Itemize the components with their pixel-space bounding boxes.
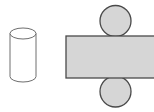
cylinder-shape: [10, 28, 36, 82]
shapes-svg: [0, 0, 154, 112]
rectangle-bar-shape: [66, 36, 154, 78]
figure-canvas: [0, 0, 154, 112]
circle-bottom-shape: [100, 76, 131, 107]
cylinder-body: [10, 34, 36, 83]
circle-top-shape: [100, 6, 131, 37]
cylinder-top-ellipse: [10, 28, 36, 39]
